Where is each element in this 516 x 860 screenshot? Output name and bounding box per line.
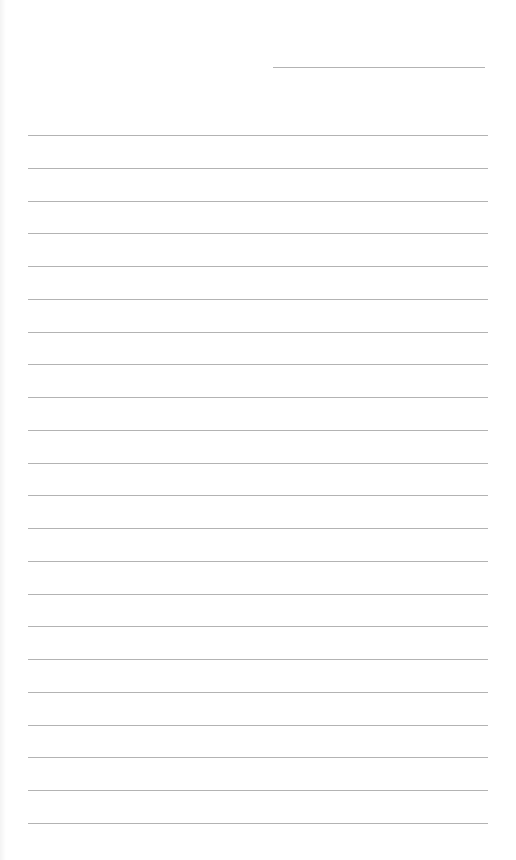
ruled-line [28,659,488,660]
ruled-line [28,528,488,529]
header-name-line [273,67,485,68]
ruled-line [28,299,488,300]
ruled-line [28,463,488,464]
ruled-line [28,692,488,693]
ruled-line [28,168,488,169]
ruled-line [28,397,488,398]
ruled-line [28,626,488,627]
lined-paper-page [0,0,516,860]
ruled-line [28,790,488,791]
ruled-line [28,561,488,562]
ruled-line [28,233,488,234]
ruled-line [28,757,488,758]
ruled-line [28,594,488,595]
ruled-line [28,495,488,496]
ruled-line [28,135,488,136]
ruled-line [28,725,488,726]
ruled-line [28,266,488,267]
ruled-line [28,823,488,824]
ruled-line [28,430,488,431]
ruled-line [28,332,488,333]
ruled-line [28,364,488,365]
ruled-line [28,201,488,202]
